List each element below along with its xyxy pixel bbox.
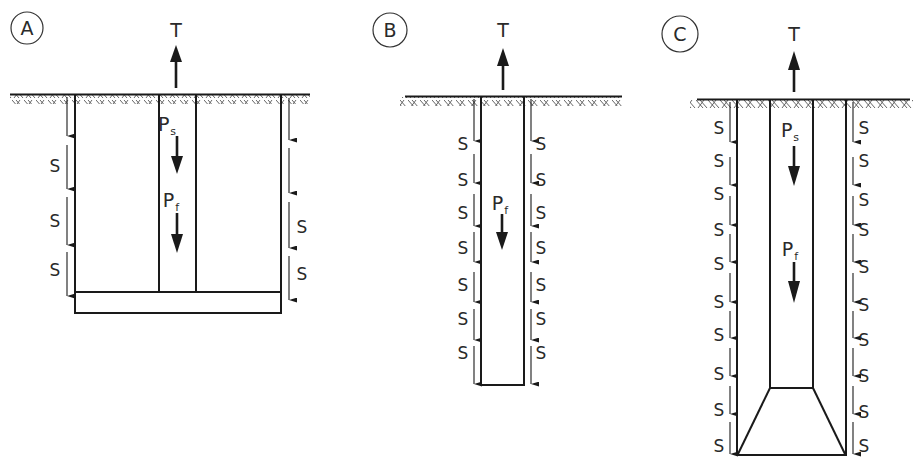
- base-plate: [76, 293, 280, 312]
- svg-text:C: C: [673, 23, 686, 45]
- svg-text:S: S: [859, 330, 870, 350]
- svg-text:S: S: [714, 325, 725, 345]
- svg-text:S: S: [458, 203, 469, 223]
- ps-label: Ps: [781, 119, 799, 144]
- tension-arrow-icon: [788, 51, 800, 92]
- svg-text:S: S: [458, 170, 469, 190]
- svg-text:S: S: [458, 275, 469, 295]
- tension-arrow-icon: [497, 48, 509, 90]
- svg-text:S: S: [458, 343, 469, 363]
- svg-text:S: S: [536, 238, 547, 258]
- pf-label: Pf: [782, 238, 799, 263]
- badge-b: B: [373, 13, 407, 47]
- pf-arrow-icon: [171, 213, 183, 253]
- s-label: S: [50, 211, 61, 231]
- svg-text:S: S: [536, 203, 547, 223]
- svg-text:S: S: [714, 254, 725, 274]
- pf-arrow-icon: [788, 262, 800, 303]
- svg-text:S: S: [714, 118, 725, 138]
- pile-diagram: A T Ps Pf: [0, 0, 923, 461]
- pf-label: Pf: [163, 189, 180, 214]
- panel-b: B T Pf: [373, 13, 622, 385]
- badge-a: A: [11, 12, 43, 44]
- svg-text:S: S: [859, 220, 870, 240]
- pf-label: Pf: [492, 192, 509, 217]
- svg-text:S: S: [859, 436, 870, 456]
- panel-a: A T Ps Pf: [10, 12, 310, 313]
- svg-text:S: S: [859, 190, 870, 210]
- tension-label: T: [169, 19, 182, 41]
- svg-text:S: S: [714, 400, 725, 420]
- s-labels-right: S S S S S S S: [536, 134, 547, 363]
- s-label: S: [297, 264, 308, 284]
- svg-text:S: S: [536, 275, 547, 295]
- ps-arrow-icon: [788, 146, 800, 186]
- inner-shaft-with-bell: [738, 100, 845, 454]
- s-label: S: [50, 156, 61, 176]
- ps-label: Ps: [158, 113, 176, 138]
- svg-text:A: A: [21, 17, 34, 39]
- tension-arrow-icon: [170, 45, 182, 88]
- svg-text:S: S: [458, 134, 469, 154]
- svg-text:S: S: [536, 170, 547, 190]
- svg-text:S: S: [714, 364, 725, 384]
- pf-arrow-icon: [496, 214, 508, 250]
- ps-arrow-icon: [171, 136, 183, 174]
- s-label: S: [297, 217, 308, 237]
- svg-text:S: S: [714, 220, 725, 240]
- svg-text:B: B: [383, 19, 396, 41]
- svg-text:S: S: [859, 366, 870, 386]
- svg-text:S: S: [859, 295, 870, 315]
- ground-surface: [690, 100, 913, 110]
- s-labels-right: S S S S S S S S S S: [859, 118, 870, 456]
- svg-text:S: S: [536, 343, 547, 363]
- tension-label: T: [496, 19, 509, 41]
- svg-text:S: S: [859, 402, 870, 422]
- badge-c: C: [662, 16, 698, 52]
- s-labels-left: S S S S S S S: [458, 134, 469, 363]
- outer-cylinder: [737, 100, 846, 455]
- svg-text:S: S: [714, 436, 725, 456]
- svg-text:S: S: [458, 309, 469, 329]
- tension-label: T: [787, 23, 800, 45]
- svg-text:S: S: [714, 184, 725, 204]
- s-labels-left: S S S S S S S S S S: [714, 118, 725, 456]
- svg-text:S: S: [859, 151, 870, 171]
- ground-surface: [400, 97, 622, 107]
- svg-text:S: S: [714, 151, 725, 171]
- svg-text:S: S: [714, 292, 725, 312]
- svg-text:S: S: [536, 134, 547, 154]
- svg-text:S: S: [458, 238, 469, 258]
- svg-text:S: S: [859, 257, 870, 277]
- svg-text:S: S: [859, 118, 870, 138]
- svg-text:S: S: [536, 309, 547, 329]
- panel-c: C T Ps Pf: [662, 16, 913, 456]
- s-label: S: [50, 260, 61, 280]
